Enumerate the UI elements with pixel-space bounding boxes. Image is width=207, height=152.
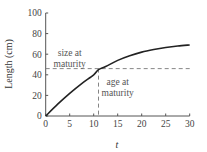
size-at-maturity-label: size atmaturity — [54, 48, 86, 69]
x-tick-label: 20 — [137, 119, 147, 129]
annotations: size atmaturityage atmaturity — [54, 48, 134, 98]
chart-canvas: 051015202530020406080100 size atmaturity… — [0, 0, 207, 152]
x-tick-label: 10 — [89, 119, 99, 129]
x-axis-label: t — [116, 139, 119, 150]
x-tick-label: 15 — [113, 119, 123, 129]
age-at-maturity-label: age atmaturity — [102, 77, 134, 98]
growth-chart: 051015202530020406080100 size atmaturity… — [0, 0, 207, 152]
x-tick-label: 5 — [67, 119, 72, 129]
x-tick-label: 0 — [43, 119, 48, 129]
x-tick-label: 25 — [161, 119, 171, 129]
y-tick-label: 60 — [32, 50, 42, 60]
y-axis-label: Length (cm) — [3, 39, 15, 89]
y-tick-label: 0 — [37, 111, 42, 121]
y-tick-label: 80 — [32, 29, 42, 39]
y-tick-label: 40 — [32, 70, 42, 80]
y-tick-label: 20 — [32, 91, 42, 101]
y-tick-label: 100 — [27, 8, 42, 18]
x-tick-label: 30 — [185, 119, 195, 129]
